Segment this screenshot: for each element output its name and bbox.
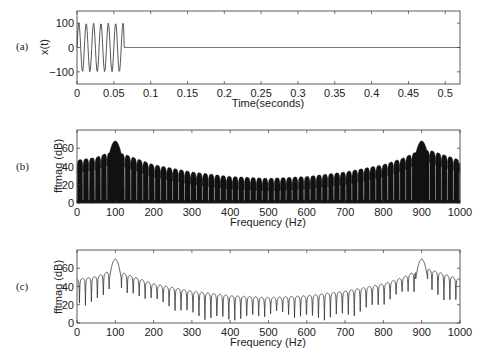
figure: (a) x(t) 00.050.10.150.20.250.30.350.40.… — [0, 0, 495, 363]
x-tick-label: 0 — [74, 87, 80, 99]
x-tick-label: 300 — [183, 206, 201, 218]
panel-a-plot-area — [77, 23, 460, 72]
panel-b-xlabel: Frequency (Hz) — [230, 216, 306, 228]
panel-c-plot-area — [77, 259, 460, 320]
panel-c-ticks: 010020030040050060070080090010000204060 — [62, 250, 472, 338]
x-tick-label: 0.15 — [177, 87, 198, 99]
panel-b: (b) fftmag (dB) 010020030040050060070080… — [16, 130, 472, 228]
x-tick-label: 0.35 — [324, 87, 345, 99]
y-tick-label: 60 — [62, 262, 74, 274]
x-tick-label: 100 — [106, 326, 124, 338]
x-tick-label: 200 — [144, 326, 162, 338]
x-tick-label: 900 — [413, 206, 431, 218]
y-tick-label: 0 — [68, 197, 74, 209]
x-tick-label: 0.1 — [143, 87, 158, 99]
x-tick-label: 800 — [374, 206, 392, 218]
x-tick-label: 1000 — [448, 326, 472, 338]
panel-a-xlabel: Time(seconds) — [232, 97, 304, 109]
y-tick-label: 0 — [68, 317, 74, 329]
x-tick-label: 700 — [336, 206, 354, 218]
x-tick-label: 300 — [183, 326, 201, 338]
x-tick-label: 1000 — [448, 206, 472, 218]
y-tick-label: −100 — [49, 66, 74, 78]
panel-c-xlabel: Frequency (Hz) — [230, 336, 306, 348]
x-tick-label: 0 — [74, 326, 80, 338]
panel-a-ylabel: x(t) — [38, 39, 50, 55]
spectrum-fill — [77, 141, 460, 203]
panel-b-plot-area — [77, 141, 460, 203]
spectrum-line — [77, 259, 460, 320]
y-tick-label: 40 — [62, 161, 74, 173]
x-tick-label: 0.45 — [398, 87, 419, 99]
x-tick-label: 0.4 — [364, 87, 379, 99]
x-tick-label: 0.5 — [438, 87, 453, 99]
y-tick-label: 20 — [62, 299, 74, 311]
x-tick-label: 900 — [413, 326, 431, 338]
panel-a: (a) x(t) 00.050.10.150.20.250.30.350.40.… — [16, 11, 460, 109]
panel-b-label: (b) — [16, 160, 29, 173]
y-tick-label: 0 — [68, 42, 74, 54]
x-tick-label: 200 — [144, 206, 162, 218]
x-tick-label: 100 — [106, 206, 124, 218]
panel-a-label: (a) — [16, 40, 29, 53]
y-tick-label: 40 — [62, 281, 74, 293]
panel-c-label: (c) — [16, 280, 29, 293]
x-tick-label: 0.05 — [103, 87, 124, 99]
y-tick-label: 60 — [62, 142, 74, 154]
panel-c: (c) fftmag (dB) 010020030040050060070080… — [16, 250, 472, 348]
x-tick-label: 0.2 — [217, 87, 232, 99]
signal-line — [77, 23, 460, 72]
y-tick-label: 100 — [56, 17, 74, 29]
x-tick-label: 800 — [374, 326, 392, 338]
y-tick-label: 20 — [62, 179, 74, 191]
x-tick-label: 700 — [336, 326, 354, 338]
x-tick-label: 0 — [74, 206, 80, 218]
